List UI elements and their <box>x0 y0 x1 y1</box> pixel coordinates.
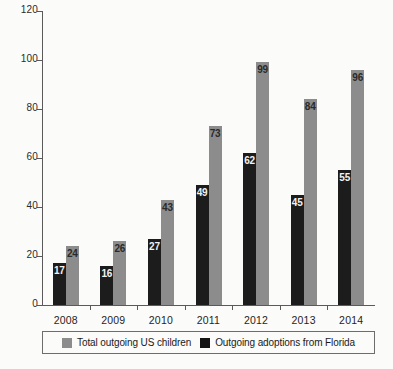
legend-label: Total outgoing US children <box>77 337 191 348</box>
x-axis-label-2008: 2008 <box>42 314 90 326</box>
x-axis-label-2009: 2009 <box>90 314 138 326</box>
x-axis-separator <box>280 305 281 310</box>
y-axis-tick-label: 40 <box>26 200 38 211</box>
y-axis-tick-label: 80 <box>26 102 38 113</box>
x-axis-label-2013: 2013 <box>280 314 328 326</box>
bar-us-total-2012: 99 <box>256 62 269 305</box>
bar-us-total-2014: 96 <box>351 70 364 305</box>
bar-group-2008: 1724 <box>53 11 79 305</box>
bar-florida-2008: 17 <box>53 263 66 305</box>
bar-value-label: 84 <box>304 101 317 112</box>
bar-us-total-2008: 24 <box>66 246 79 305</box>
bar-value-label: 55 <box>338 172 351 183</box>
x-axis-label-2010: 2010 <box>137 314 185 326</box>
bar-florida-2009: 16 <box>100 266 113 305</box>
y-axis-line <box>42 11 43 305</box>
x-axis-separator <box>232 305 233 310</box>
y-axis-tick-label: 100 <box>21 53 38 64</box>
figure-caption-cropped <box>6 360 386 369</box>
bar-value-label: 73 <box>209 128 222 139</box>
bar-group-2009: 1626 <box>100 11 126 305</box>
bar-value-label: 27 <box>148 241 161 252</box>
x-axis-separator <box>90 305 91 310</box>
bar-group-2010: 2743 <box>148 11 174 305</box>
bar-florida-2013: 45 <box>291 195 304 305</box>
y-axis-tick-label: 120 <box>21 4 38 15</box>
bar-value-label: 16 <box>100 268 113 279</box>
bar-value-label: 24 <box>66 248 79 259</box>
x-axis-line <box>42 305 375 306</box>
bar-us-total-2013: 84 <box>304 99 317 305</box>
bar-value-label: 26 <box>113 243 126 254</box>
chart-legend: Total outgoing US children Outgoing adop… <box>42 331 375 354</box>
x-axis-label-2012: 2012 <box>232 314 280 326</box>
bar-florida-2011: 49 <box>196 185 209 305</box>
figure-bar-chart: 020406080100120 172416262743497362994584… <box>0 0 393 369</box>
x-axis-separator <box>137 305 138 310</box>
bar-florida-2010: 27 <box>148 239 161 305</box>
bar-group-2013: 4584 <box>291 11 317 305</box>
y-axis-tick-label: 60 <box>26 151 38 162</box>
bar-value-label: 99 <box>256 64 269 75</box>
x-axis-separator <box>185 305 186 310</box>
legend-swatch-icon-black <box>200 338 210 348</box>
bar-value-label: 43 <box>161 202 174 213</box>
bar-value-label: 49 <box>196 187 209 198</box>
bar-value-label: 17 <box>53 265 66 276</box>
x-axis-separator <box>327 305 328 310</box>
bar-us-total-2009: 26 <box>113 241 126 305</box>
bar-us-total-2010: 43 <box>161 200 174 305</box>
legend-entry-outgoing-adoptions-from-florida: Outgoing adoptions from Florida <box>200 337 355 348</box>
legend-entry-total-outgoing-us-children: Total outgoing US children <box>62 337 191 348</box>
bar-us-total-2011: 73 <box>209 126 222 305</box>
x-axis-label-2011: 2011 <box>185 314 233 326</box>
y-axis-tick-label: 20 <box>26 249 38 260</box>
bar-group-2014: 5596 <box>338 11 364 305</box>
bar-florida-2012: 62 <box>243 153 256 305</box>
bar-value-label: 62 <box>243 155 256 166</box>
y-axis-tick-label: 0 <box>32 298 38 309</box>
bar-group-2012: 6299 <box>243 11 269 305</box>
x-axis-label-2014: 2014 <box>327 314 375 326</box>
legend-swatch-icon-gray <box>62 338 72 348</box>
bar-value-label: 96 <box>351 72 364 83</box>
bar-group-2011: 4973 <box>196 11 222 305</box>
bar-value-label: 45 <box>291 197 304 208</box>
bar-florida-2014: 55 <box>338 170 351 305</box>
legend-label: Outgoing adoptions from Florida <box>215 337 355 348</box>
plot-area: 020406080100120 172416262743497362994584… <box>42 11 375 305</box>
